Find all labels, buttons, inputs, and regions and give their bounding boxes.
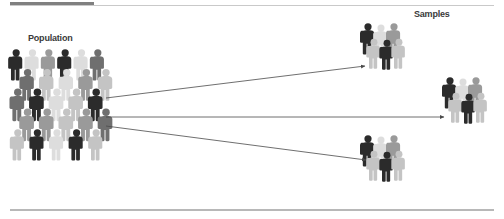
figures-and-arrows <box>0 0 504 219</box>
population-figure <box>19 69 33 101</box>
sample-top <box>360 23 405 70</box>
population-figure <box>78 69 92 101</box>
sample-clusters <box>360 23 487 182</box>
population-figure <box>29 129 43 160</box>
sample-right <box>442 77 487 124</box>
population-crowd <box>8 49 112 160</box>
sample-bottom <box>360 135 405 182</box>
arrow-to-bottom <box>106 126 366 160</box>
population-figure <box>9 89 24 122</box>
population-figure <box>8 49 22 80</box>
population-figure <box>19 109 34 142</box>
population-figure <box>57 49 71 80</box>
population-figure <box>49 129 63 160</box>
population-figure <box>10 129 24 160</box>
diagram-canvas: Population Samples <box>0 0 504 219</box>
population-figure <box>78 109 93 142</box>
arrow-to-top <box>106 66 365 98</box>
population-figure <box>39 109 54 142</box>
population-figure <box>58 109 73 142</box>
population-figure <box>90 49 104 80</box>
population-figure <box>69 129 83 160</box>
population-figure <box>98 109 113 142</box>
population-figure <box>88 129 102 160</box>
